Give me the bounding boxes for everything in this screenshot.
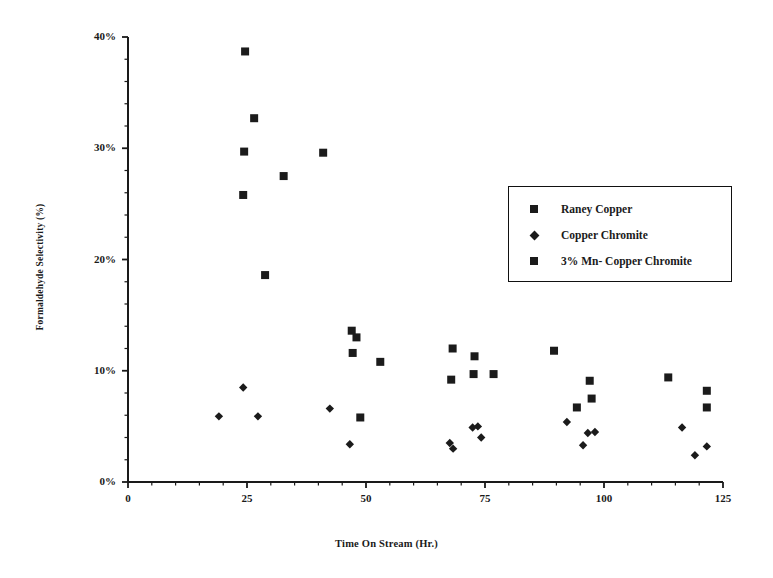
y-tick-label: 40%	[52, 30, 116, 42]
data-point	[664, 373, 672, 381]
scatter-chart-figure: 0%10%20%30%40% 0255075100125 Time On Str…	[0, 0, 773, 578]
data-point	[703, 442, 711, 450]
legend-item-copper-chromite: Copper Chromite	[509, 222, 731, 248]
legend-label: Raney Copper	[561, 203, 632, 215]
x-tick-label: 50	[341, 492, 391, 504]
legend-label: Copper Chromite	[561, 229, 648, 241]
square-marker-icon	[523, 205, 545, 213]
data-point	[346, 440, 354, 448]
data-point	[240, 148, 248, 156]
y-tick-label: 30%	[52, 141, 116, 153]
data-point	[319, 149, 327, 157]
data-point	[477, 433, 485, 441]
data-point	[703, 387, 711, 395]
data-point	[678, 423, 686, 431]
data-point	[584, 429, 592, 437]
data-point	[563, 418, 571, 426]
x-tick-label: 125	[698, 492, 748, 504]
y-tick-label: 20%	[52, 253, 116, 265]
square-marker-icon	[523, 257, 545, 265]
data-point	[573, 403, 581, 411]
data-point	[250, 114, 258, 122]
data-point	[447, 376, 455, 384]
diamond-marker-icon	[523, 232, 545, 239]
data-point	[356, 413, 364, 421]
data-point	[470, 370, 478, 378]
data-point	[449, 345, 457, 353]
x-tick-label: 0	[103, 492, 153, 504]
legend-item-raney-copper: Raney Copper	[509, 196, 731, 222]
x-axis-title: Time On Stream (Hr.)	[0, 538, 773, 549]
data-point	[241, 47, 249, 55]
data-point	[280, 172, 288, 180]
x-tick-label: 100	[579, 492, 629, 504]
data-point	[349, 349, 357, 357]
data-point	[239, 191, 247, 199]
data-point	[490, 370, 498, 378]
data-point	[376, 358, 384, 366]
data-point	[239, 383, 247, 391]
data-point	[261, 271, 269, 279]
data-point	[550, 347, 558, 355]
y-tick-label: 10%	[52, 364, 116, 376]
data-point	[586, 377, 594, 385]
data-point	[703, 403, 711, 411]
data-point	[254, 412, 262, 420]
data-point	[588, 395, 596, 403]
data-point	[471, 352, 479, 360]
legend-label: 3% Mn- Copper Chromite	[561, 255, 692, 267]
data-point	[326, 404, 334, 412]
data-point	[579, 441, 587, 449]
data-point	[352, 333, 360, 341]
data-point	[691, 451, 699, 459]
y-axis-title: Formaldehyde Selectivity (%)	[35, 147, 45, 387]
chart-legend: Raney Copper Copper Chromite 3% Mn- Copp…	[508, 186, 732, 282]
data-point	[591, 428, 599, 436]
data-point	[215, 412, 223, 420]
y-tick-label: 0%	[52, 475, 116, 487]
x-tick-label: 75	[460, 492, 510, 504]
x-tick-label: 25	[222, 492, 272, 504]
legend-item-mn-copper-chromite: 3% Mn- Copper Chromite	[509, 248, 731, 274]
